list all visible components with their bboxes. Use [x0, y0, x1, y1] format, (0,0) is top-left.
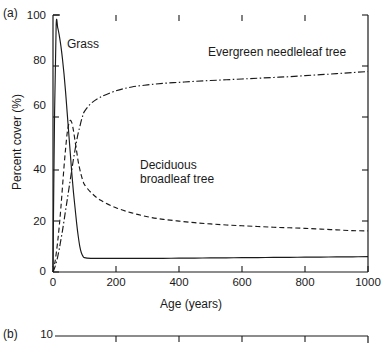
series-line-deciduous-broadleaf-tree: [53, 120, 368, 272]
series-line-grass: [53, 19, 368, 267]
x-axis-ticks-top: [116, 15, 305, 21]
figure-panel-a: (a) 100 80 60 40 20 0 0 200 400 600 800 …: [0, 0, 387, 343]
data-series-group: [53, 19, 368, 272]
series-line-evergreen-needleleaf-tree: [53, 72, 368, 272]
plot-area: [0, 0, 387, 343]
y-axis-ticks-right: [362, 15, 368, 221]
axis-spines: [53, 15, 368, 272]
x-axis-ticks: [53, 266, 368, 272]
panel-b-axis: [0, 313, 387, 343]
